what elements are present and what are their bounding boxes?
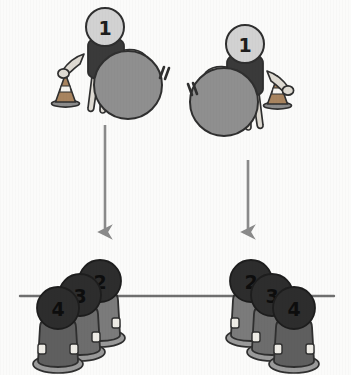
right-seated-4: 4 [269, 287, 319, 373]
right-thrower: 1 [188, 25, 294, 136]
right-seated-group: 2 3 4 [226, 260, 319, 373]
right-seated-4-label: 4 [287, 298, 300, 320]
left-cone-icon [52, 74, 80, 107]
right-ball [190, 68, 258, 136]
diagram-canvas: 1 2 [0, 0, 351, 375]
left-ball-motion-lines [160, 67, 169, 79]
right-thrower-label: 1 [238, 34, 251, 56]
left-station: 1 2 [33, 8, 169, 373]
left-thrower-label: 1 [98, 17, 111, 39]
left-seated-group: 2 3 4 [33, 260, 125, 373]
left-seated-4-label: 4 [51, 298, 64, 320]
left-ball [94, 51, 162, 119]
left-seated-4: 4 [33, 287, 83, 373]
right-station: 1 2 [188, 25, 319, 373]
drill-diagram: 1 2 [0, 0, 351, 375]
